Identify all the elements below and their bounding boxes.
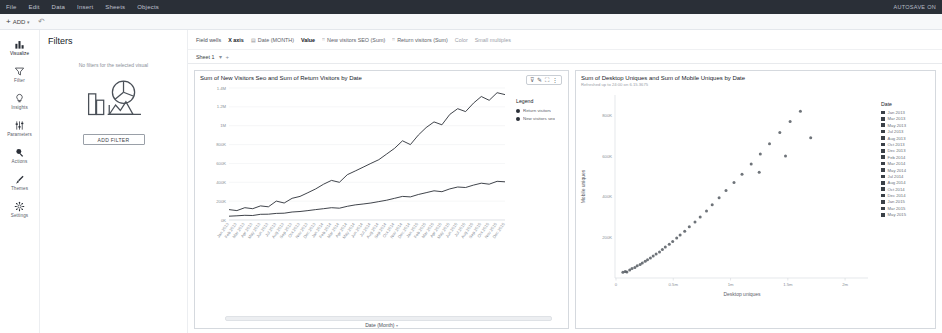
legend-item[interactable]: Jul 2014	[881, 174, 933, 179]
svg-text:200K: 200K	[216, 199, 226, 204]
sidebar-item-parameters[interactable]: Parameters	[0, 115, 40, 142]
cursor-click-icon	[14, 147, 25, 158]
line-chart-svg: 0K200K400K600K800K1M1.2M1.4MJan 2013Feb …	[195, 82, 511, 266]
legend-item[interactable]: Aug 2013	[881, 136, 933, 141]
sidebar-item-actions[interactable]: Actions	[0, 142, 40, 169]
legend-item[interactable]: Mar 2014	[881, 161, 933, 166]
legend-item[interactable]: May 2014	[881, 168, 933, 173]
value-label: Value	[301, 37, 315, 43]
legend-item[interactable]: May 2015	[881, 212, 933, 217]
sidebar-label-parameters: Parameters	[7, 132, 32, 137]
legend-item[interactable]: Oct 2013	[881, 142, 933, 147]
menu-item-edit[interactable]: Edit	[28, 4, 39, 10]
legend-item[interactable]: Mar 2015	[881, 206, 933, 211]
filter-visual-icon[interactable]: ⊽	[530, 77, 534, 83]
filters-panel-title: Filters	[48, 36, 179, 46]
legend-swatch	[881, 200, 885, 204]
left-nav-rail: Visualize Filter Insights	[0, 30, 40, 333]
visuals-area: Sum of New Visitors Seo and Sum of Retur…	[188, 64, 942, 333]
menu-item-sheets[interactable]: Sheets	[105, 4, 125, 10]
add-filter-button[interactable]: ADD FILTER	[83, 134, 145, 145]
x-axis-field-name: Date (MONTH)	[258, 37, 294, 43]
svg-text:Desktop uniques: Desktop uniques	[723, 291, 761, 297]
analysis-canvas: Field wells X axis ▤ Date (MONTH) Value …	[188, 30, 942, 333]
line-chart-xaxis-title: Date (Month) ▾	[195, 321, 568, 328]
legend-item[interactable]: Aug 2014	[881, 180, 933, 185]
sidebar-item-insights[interactable]: Insights	[0, 88, 40, 115]
menu-item-objects[interactable]: Objects	[137, 4, 159, 10]
menu-item-insert[interactable]: Insert	[77, 4, 93, 10]
legend-item[interactable]: Dec 2014	[881, 193, 933, 198]
field-wells-bar: Field wells X axis ▤ Date (MONTH) Value …	[188, 30, 942, 50]
menu-dots-icon[interactable]: ⋮	[552, 77, 558, 83]
chevron-down-icon: ▾	[27, 19, 30, 25]
x-axis-label: X axis	[228, 37, 244, 43]
legend-item[interactable]: Jan 2015	[881, 199, 933, 204]
svg-text:600K: 600K	[216, 161, 226, 166]
sidebar-item-filter[interactable]: Filter	[0, 61, 40, 88]
legend-label: May 2015	[888, 212, 906, 217]
legend-label: Oct 2013	[888, 142, 905, 147]
small-multiples-well[interactable]: Small multiples	[475, 37, 511, 43]
sidebar-label-insights: Insights	[11, 105, 28, 110]
legend-swatch	[881, 149, 885, 153]
legend-label: Jul 2014	[888, 174, 904, 179]
legend-item[interactable]: Feb 2014	[881, 155, 933, 160]
value-field-name-1: New visitors SEO (Sum)	[327, 37, 385, 43]
legend-swatch	[881, 187, 885, 191]
maximize-icon[interactable]: ⛶	[545, 77, 549, 83]
menu-item-file[interactable]: File	[6, 4, 16, 10]
sidebar-item-settings[interactable]: Settings	[0, 196, 40, 223]
autosave-status[interactable]: AUTOSAVE ON	[893, 4, 936, 10]
legend-label: Feb 2014	[888, 155, 906, 160]
add-button[interactable]: + ADD ▾	[6, 18, 30, 26]
lightbulb-icon	[14, 93, 25, 104]
scatter-plot-title: Sum of Desktop Uniques and Sum of Mobile…	[576, 71, 935, 82]
svg-text:1M: 1M	[220, 123, 226, 128]
add-sheet-icon[interactable]: +	[226, 54, 230, 60]
filters-empty-message: No filters for the selected visual	[48, 62, 179, 68]
sidebar-item-visualize[interactable]: Visualize	[0, 34, 40, 61]
svg-text:400K: 400K	[216, 180, 226, 185]
scatter-plot-area[interactable]: 200K400K600K800K00.5m1m1.5m2mMobile uniq…	[576, 89, 877, 328]
legend-swatch	[881, 162, 885, 166]
legend-swatch	[881, 175, 885, 179]
legend-item-return-visitors[interactable]: Return visitors	[516, 108, 565, 113]
sidebar-label-visualize: Visualize	[10, 51, 29, 56]
line-chart-plot[interactable]: 0K200K400K600K800K1M1.2M1.4MJan 2013Feb …	[195, 82, 512, 315]
legend-item[interactable]: May 2013	[881, 123, 933, 128]
field-wells-title: Field wells	[196, 37, 221, 43]
visual-line-chart[interactable]: Sum of New Visitors Seo and Sum of Retur…	[194, 70, 569, 329]
legend-item-new-visitors[interactable]: New visitors seo	[516, 116, 565, 121]
scatter-plot-subtitle: Refreshed up to 24:00 on 6.15.3675	[576, 82, 935, 89]
workspace: Visualize Filter Insights	[0, 30, 942, 333]
chevron-down-icon[interactable]: ▾	[396, 323, 398, 328]
legend-swatch	[516, 109, 520, 113]
legend-label: May 2013	[888, 123, 906, 128]
sidebar-item-themes[interactable]: Themes	[0, 169, 40, 196]
visual-scatter-plot[interactable]: Sum of Desktop Uniques and Sum of Mobile…	[575, 70, 936, 329]
legend-rows: Jan 2013Mar 2013May 2013Jul 2013Aug 2013…	[881, 110, 933, 217]
value-field-pill-2[interactable]: ⌗ Return visitors (Sum)	[392, 36, 448, 43]
legend-swatch	[881, 207, 885, 211]
action-bar: + ADD ▾ ↶	[0, 14, 942, 30]
svg-text:800K: 800K	[602, 113, 612, 118]
edit-pencil-icon[interactable]: ✎	[537, 77, 542, 83]
sheet-tab-sheet-1[interactable]: Sheet 1	[196, 54, 215, 60]
undo-icon[interactable]: ↶	[38, 17, 45, 26]
color-well[interactable]: Color	[455, 37, 468, 43]
gear-icon	[14, 201, 25, 212]
legend-swatch	[881, 168, 885, 172]
legend-item[interactable]: Jul 2013	[881, 129, 933, 134]
legend-swatch	[881, 143, 885, 147]
legend-item[interactable]: Mar 2013	[881, 116, 933, 121]
legend-label: Jan 2013	[888, 110, 905, 115]
menu-item-data[interactable]: Data	[52, 4, 65, 10]
legend-item[interactable]: Jan 2013	[881, 110, 933, 115]
legend-item[interactable]: Oct 2014	[881, 187, 933, 192]
chevron-down-icon[interactable]: ▾	[219, 53, 222, 60]
sidebar-label-actions: Actions	[12, 159, 28, 164]
x-axis-field-pill[interactable]: ▤ Date (MONTH)	[251, 37, 294, 43]
legend-item[interactable]: Dec 2013	[881, 148, 933, 153]
value-field-pill-1[interactable]: ⌗ New visitors SEO (Sum)	[322, 36, 385, 43]
